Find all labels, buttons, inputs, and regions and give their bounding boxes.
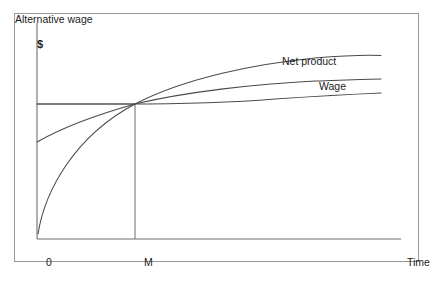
curve-alternative-wage (37, 93, 381, 104)
figure-border-frame: $ 0 M Time Net product Wage Alternative … (14, 13, 419, 262)
x-axis-label: Time (407, 257, 430, 268)
series-label-wage: Wage (319, 81, 346, 92)
y-axis-label: $ (37, 39, 43, 50)
x-axis-tick-label-origin: 0 (46, 257, 52, 268)
figure-root: $ 0 M Time Net product Wage Alternative … (0, 0, 433, 281)
series-label-alternative-wage: Alternative wage (15, 14, 93, 25)
series-label-net-product: Net product (282, 56, 336, 67)
x-axis-tick-label-m: M (144, 257, 153, 268)
chart-plot-area (15, 14, 418, 261)
